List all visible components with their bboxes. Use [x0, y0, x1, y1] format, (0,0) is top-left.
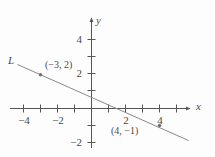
- data-line-L: [18, 65, 189, 141]
- x-tick-label: 4: [149, 115, 171, 126]
- y-tick-label: −2: [62, 137, 82, 148]
- y-axis-label: y: [96, 15, 101, 26]
- line-name-L: L: [8, 55, 14, 66]
- y-tick-label: 4: [66, 34, 82, 45]
- point-label-a: (−3, 2): [45, 60, 72, 70]
- plot-canvas: [0, 0, 215, 157]
- x-tick-label: −2: [47, 115, 69, 126]
- point-label-b: (4, −1): [111, 126, 138, 136]
- x-axis-label: x: [196, 101, 201, 112]
- data-point-marker: [39, 73, 42, 76]
- coordinate-plane-figure: −4 −2 2 4 4 2 −2 x y L (−3, 2) (4, −1): [0, 0, 215, 157]
- x-tick-label: −4: [13, 115, 35, 126]
